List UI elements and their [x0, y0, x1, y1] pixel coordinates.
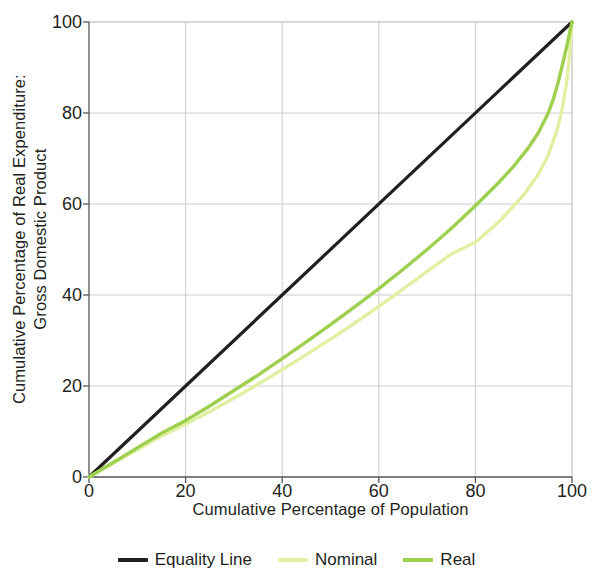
legend-label: Equality Line: [155, 550, 252, 570]
x-axis-tick-label: 60: [369, 481, 389, 502]
legend-item[interactable]: Nominal: [278, 550, 377, 570]
legend-swatch-icon: [278, 558, 308, 562]
series-line-equality-line: [89, 22, 572, 477]
legend-label: Real: [440, 550, 475, 570]
data-series: [89, 22, 572, 477]
x-axis-tick-label: 40: [272, 481, 292, 502]
lorenz-curve-chart: Cumulative Percentage of Real Expenditur…: [0, 0, 593, 573]
x-axis-tick-label: 80: [465, 481, 485, 502]
legend-swatch-icon: [118, 558, 148, 562]
legend-label: Nominal: [315, 550, 377, 570]
legend-swatch-icon: [403, 558, 433, 562]
x-axis-tick-label: 100: [557, 481, 587, 502]
legend-item[interactable]: Equality Line: [118, 550, 252, 570]
legend-item[interactable]: Real: [403, 550, 475, 570]
x-axis-label: Cumulative Percentage of Population: [89, 500, 572, 519]
x-axis-tick-label: 20: [176, 481, 196, 502]
x-axis-tick-label: 0: [84, 481, 94, 502]
chart-legend: Equality LineNominalReal: [0, 547, 593, 573]
